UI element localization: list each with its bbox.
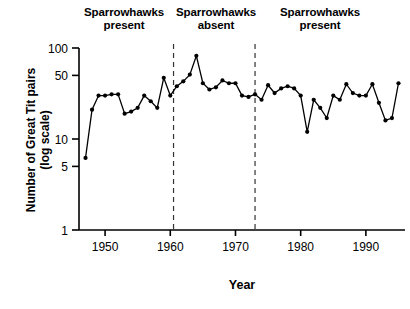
- data-point: [364, 93, 368, 97]
- line-chart: 151050100 19501960197019801990: [0, 0, 410, 309]
- data-point: [155, 106, 159, 110]
- data-point: [162, 76, 166, 80]
- data-point: [181, 79, 185, 83]
- x-tick-label: 1960: [157, 240, 184, 254]
- data-point: [207, 87, 211, 91]
- data-series-line: [86, 56, 399, 158]
- data-point: [194, 54, 198, 58]
- data-point: [286, 84, 290, 88]
- y-tick-label: 50: [55, 69, 69, 83]
- data-point: [142, 93, 146, 97]
- data-point: [103, 93, 107, 97]
- data-point: [110, 92, 114, 96]
- data-point: [344, 82, 348, 86]
- data-point: [240, 93, 244, 97]
- data-point: [357, 93, 361, 97]
- data-point: [312, 98, 316, 102]
- data-point: [338, 98, 342, 102]
- data-series-markers: [83, 54, 400, 160]
- data-point: [233, 81, 237, 85]
- data-point: [96, 93, 100, 97]
- data-point: [220, 78, 224, 82]
- data-point: [83, 156, 87, 160]
- data-point: [292, 86, 296, 90]
- data-point: [273, 91, 277, 95]
- figure-panel: Sparrowhawks present Sparrowhawks absent…: [0, 0, 410, 309]
- data-point: [168, 93, 172, 97]
- data-point: [259, 98, 263, 102]
- data-point: [325, 116, 329, 120]
- data-point: [279, 86, 283, 90]
- x-tick-label: 1980: [287, 240, 314, 254]
- y-tick-label: 10: [55, 133, 69, 147]
- data-point: [175, 84, 179, 88]
- data-point: [136, 106, 140, 110]
- data-point: [246, 95, 250, 99]
- data-point: [266, 83, 270, 87]
- axes: [79, 48, 405, 230]
- x-tick-label: 1970: [222, 240, 249, 254]
- y-tick-label: 1: [61, 224, 68, 238]
- y-axis-ticks: 151050100: [48, 42, 79, 238]
- x-tick-label: 1990: [353, 240, 380, 254]
- data-point: [396, 81, 400, 85]
- x-axis-ticks: 19501960197019801990: [92, 230, 380, 254]
- data-point: [201, 81, 205, 85]
- data-point: [123, 112, 127, 116]
- data-point: [377, 101, 381, 105]
- data-point: [253, 92, 257, 96]
- y-tick-label: 5: [61, 160, 68, 174]
- data-point: [129, 110, 133, 114]
- data-point: [214, 85, 218, 89]
- data-point: [318, 106, 322, 110]
- data-point: [227, 81, 231, 85]
- data-point: [188, 73, 192, 77]
- y-axis-label: Number of Great Tit pairs (log scale): [24, 40, 52, 240]
- data-point: [331, 93, 335, 97]
- data-point: [90, 108, 94, 112]
- data-point: [116, 92, 120, 96]
- x-tick-label: 1950: [92, 240, 119, 254]
- data-point: [149, 99, 153, 103]
- data-point: [299, 93, 303, 97]
- data-point: [351, 91, 355, 95]
- vertical-divider-lines: [174, 44, 256, 230]
- x-axis-label: Year: [79, 278, 405, 292]
- data-point: [305, 130, 309, 134]
- data-point: [390, 116, 394, 120]
- data-point: [370, 82, 374, 86]
- data-point: [383, 118, 387, 122]
